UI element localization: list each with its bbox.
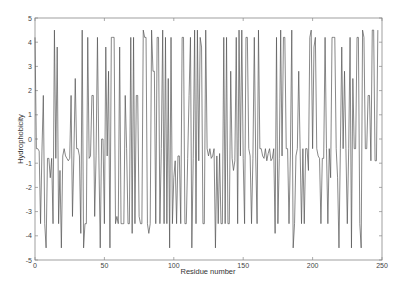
y-tick-label: -4	[26, 232, 32, 239]
x-tick-label: 250	[376, 262, 388, 269]
x-tick-label: 50	[101, 262, 109, 269]
y-tick-label: 2	[28, 87, 32, 94]
hydrophobicity-chart: -5-4-3-2-1012345 050100150200250 Residue…	[0, 0, 407, 288]
y-tick-label: 3	[28, 63, 32, 70]
y-tick-label: -2	[26, 184, 32, 191]
y-tick-label: -3	[26, 208, 32, 215]
x-axis-label: Residue number	[180, 267, 236, 276]
x-tick-label: 150	[237, 262, 249, 269]
x-tick-label: 200	[307, 262, 319, 269]
x-tick-label: 0	[33, 262, 37, 269]
y-axis-label: Hydrophobicity	[16, 114, 25, 164]
y-tick-label: -5	[26, 257, 32, 264]
y-tick-label: 5	[28, 15, 32, 22]
y-tick-label: 0	[28, 136, 32, 143]
y-tick-label: 1	[28, 111, 32, 118]
x-tick-label: 100	[168, 262, 180, 269]
y-tick-label: 4	[28, 39, 32, 46]
y-tick-label: -1	[26, 160, 32, 167]
